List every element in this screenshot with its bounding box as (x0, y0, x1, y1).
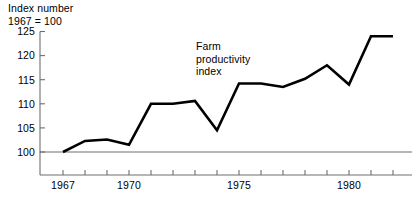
annotation-line3: index (196, 65, 222, 77)
y-axis-tick-label: 100 (17, 146, 35, 158)
x-axis: 1967197019751980 (40, 170, 412, 191)
y-axis-tick-label: 125 (17, 25, 35, 37)
x-axis-tick-label: 1980 (337, 179, 361, 191)
annotation-line1: Farm (196, 40, 221, 52)
x-axis-tick-label: 1967 (51, 179, 75, 191)
series-annotation: Farmproductivityindex (196, 40, 250, 78)
chart-figure: Index number1967 = 100 10010511011512012… (0, 0, 416, 203)
x-axis-tick-label: 1970 (117, 179, 141, 191)
annotation-line2: productivity (196, 53, 250, 65)
x-axis-tick-label: 1975 (227, 179, 251, 191)
y-axis-tick-label: 115 (18, 74, 35, 86)
chart-canvas: 100105110115120125 1967197019751980 (0, 0, 416, 203)
y-axis-tick-label: 105 (17, 122, 35, 134)
y-axis-tick-label: 120 (17, 49, 35, 61)
y-axis-tick-label: 110 (18, 98, 35, 110)
